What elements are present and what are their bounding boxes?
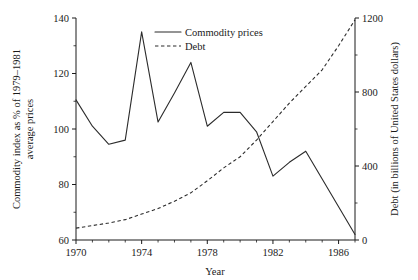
series-line-commodity-prices [76,32,355,235]
y-axis-right-title: Debt (in billions of United States dolla… [389,42,401,216]
x-ticklabel: 1970 [66,247,87,258]
y-ticklabel-left: 100 [53,124,69,135]
series-line-debt [76,20,355,228]
y-ticklabel-right: 1200 [362,13,383,24]
legend: Commodity prices Debt [155,27,263,52]
y-ticklabel-left: 60 [59,235,70,246]
x-ticklabel: 1986 [328,247,349,258]
x-ticklabel: 1982 [262,247,283,258]
x-axis-ticks: 19701974197819821986 [66,240,356,258]
x-ticklabel: 1974 [131,247,153,258]
axes [76,18,355,240]
x-ticklabel: 1978 [197,247,218,258]
chart-figure: 6080100120140 04008001200 19701974197819… [0,0,418,280]
y-ticklabel-right: 400 [362,161,378,172]
y-axis-right-ticks: 04008001200 [355,13,383,246]
y-ticklabel-right: 0 [362,235,367,246]
y-ticklabel-right: 800 [362,87,378,98]
series-layer [76,20,355,235]
dual-axis-line-chart: 6080100120140 04008001200 19701974197819… [0,0,418,280]
y-axis-left-ticks: 6080100120140 [53,13,76,246]
legend-label-debt: Debt [185,41,205,52]
y-ticklabel-left: 120 [53,68,69,79]
y-axis-left-title-2: average prices [24,99,35,159]
legend-label-commodity-prices: Commodity prices [185,27,263,38]
y-ticklabel-left: 80 [59,179,70,190]
y-axis-left-title: Commodity index as % of 1979–1981 [11,49,22,209]
x-axis-title: Year [205,266,225,277]
y-ticklabel-left: 140 [53,13,69,24]
